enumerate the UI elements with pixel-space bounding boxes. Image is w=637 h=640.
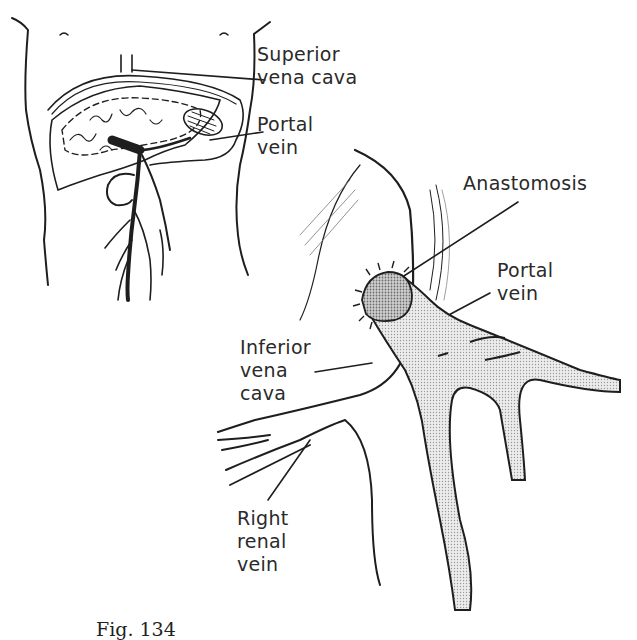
label-line: Inferior (240, 336, 311, 359)
label-line: vein (237, 553, 289, 576)
label-anastomosis: Anastomosis (463, 172, 587, 195)
label-line: Anastomosis (463, 172, 587, 195)
label-line: vena (240, 359, 311, 382)
label-line: Portal (257, 113, 313, 136)
label-line: Superior (257, 43, 357, 66)
portal-vein-shape (353, 261, 620, 610)
label-line: cava (240, 382, 311, 405)
leader-ivc (315, 363, 372, 372)
label-portal-vein-detail: Portal vein (497, 259, 553, 305)
leader-svc (132, 70, 265, 80)
label-inferior-vena-cava: Inferior vena cava (240, 336, 311, 405)
figure-caption: Fig. 134 (96, 618, 176, 640)
torso-panel (12, 18, 270, 300)
label-right-renal-vein: Right renal vein (237, 507, 289, 576)
label-portal-vein-top: Portal vein (257, 113, 313, 159)
label-line: vein (497, 282, 553, 305)
label-line: vein (257, 136, 313, 159)
label-line: Right (237, 507, 289, 530)
label-line: renal (237, 530, 289, 553)
label-superior-vena-cava: Superior vena cava (257, 43, 357, 89)
label-line: vena cava (257, 66, 357, 89)
torso-left-outline (12, 18, 48, 285)
label-line: Portal (497, 259, 553, 282)
